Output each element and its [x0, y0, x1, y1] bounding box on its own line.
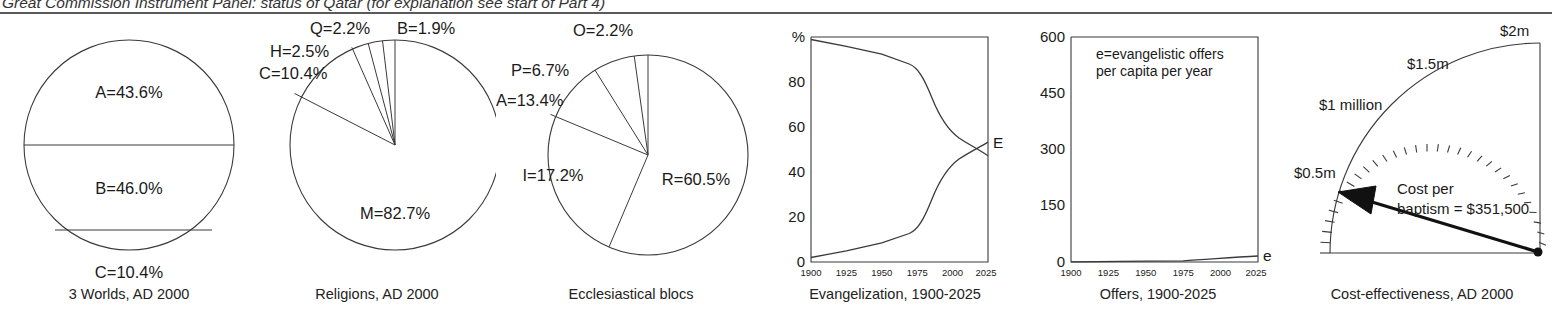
y-tick-80: 80: [788, 73, 805, 90]
x-tick-1975: 1975: [1173, 267, 1194, 278]
slice-edge-i: [609, 155, 648, 247]
x-tick-2000: 2000: [1210, 267, 1231, 278]
label-segment-b: B=46.0%: [95, 179, 163, 197]
chart-ecclesiastical-blocs: R=60.5% I=17.2% A=13.4% P=6.7% O=2.2% Ec…: [496, 14, 766, 310]
cost-effectiveness-gauge: $0.5m $1 million $1.5m $2m Cost per bapt…: [1292, 14, 1552, 310]
label-slice-c: C=10.4%: [259, 64, 328, 82]
gauge-label-2m: $2m: [1500, 22, 1529, 39]
gauge-label-1-5m: $1.5m: [1407, 55, 1449, 72]
caption-religions: Religions, AD 2000: [258, 286, 496, 302]
label-slice-m: M=82.7%: [360, 204, 430, 222]
label-slice-h: H=2.5%: [270, 42, 329, 60]
x-tick-2000: 2000: [942, 267, 963, 278]
caption-3-worlds: 3 Worlds, AD 2000: [0, 286, 258, 302]
slice-edge-c: [295, 94, 395, 146]
caption-evangelization: Evangelization, 1900-2025: [766, 286, 1024, 302]
caption-ecclesiastical-blocs: Ecclesiastical blocs: [496, 286, 766, 302]
x-tick-1925: 1925: [1098, 267, 1119, 278]
x-tick-2025: 2025: [975, 267, 996, 278]
slice-edge-o: [634, 56, 648, 155]
slice-edge-a: [551, 114, 649, 155]
chart-cost-effectiveness: $0.5m $1 million $1.5m $2m Cost per bapt…: [1292, 14, 1552, 310]
gauge-label-0-5m: $0.5m: [1294, 164, 1336, 181]
x-tick-1950: 1950: [1135, 267, 1156, 278]
y-tick-450: 450: [1040, 84, 1065, 101]
page-title: Great Commission Instrument Panel: statu…: [2, 0, 1550, 11]
caption-cost-effectiveness: Cost-effectiveness, AD 2000: [1292, 286, 1552, 302]
x-tick-1975: 1975: [907, 267, 928, 278]
y-tick-150: 150: [1040, 196, 1065, 213]
x-tick-1950: 1950: [871, 267, 892, 278]
label-slice-a: A=13.4%: [496, 91, 564, 109]
gauge-readout-line-2: baptism = $351,500: [1397, 200, 1529, 217]
plot-frame: [811, 37, 988, 262]
chart-religions: M=82.7% C=10.4% H=2.5% Q=2.2% B=1.9% Rel…: [258, 14, 496, 310]
y-tick-20: 20: [788, 208, 805, 225]
slice-edge-p: [595, 70, 648, 155]
x-tick-1900: 1900: [1060, 267, 1081, 278]
instrument-panel: Great Commission Instrument Panel: statu…: [0, 0, 1552, 310]
label-slice-p: P=6.7%: [511, 61, 570, 79]
curve-unevangelized: [811, 40, 988, 156]
evangelization-line-chart: % 0 20 40 60 80 1900 1925 1950 1975 2000…: [766, 14, 1024, 310]
religions-pie: M=82.7% C=10.4% H=2.5% Q=2.2% B=1.9%: [258, 14, 496, 310]
y-tick-600: 600: [1040, 28, 1065, 45]
chart-offers: 600 450 300 150 0 1900 1925 1950 1975 20…: [1024, 14, 1292, 310]
offers-note-line-2: per capita per year: [1096, 63, 1213, 79]
label-slice-r: R=60.5%: [662, 170, 731, 188]
label-slice-i: I=17.2%: [522, 166, 583, 184]
offers-line-chart: 600 450 300 150 0 1900 1925 1950 1975 20…: [1024, 14, 1292, 310]
y-axis-unit: %: [792, 28, 805, 45]
curve-offers: [1071, 256, 1258, 262]
label-segment-c: C=10.4%: [95, 263, 164, 281]
label-segment-a: A=43.6%: [95, 83, 163, 101]
series-label-e: e: [1263, 247, 1272, 264]
offers-note-line-1: e=evangelistic offers: [1096, 46, 1224, 62]
label-slice-o: O=2.2%: [573, 21, 633, 39]
series-label-E: E: [993, 134, 1003, 151]
x-tick-2025: 2025: [1245, 267, 1266, 278]
label-slice-b: B=1.9%: [397, 19, 456, 37]
caption-offers: Offers, 1900-2025: [1024, 286, 1292, 302]
curve-evangelized: [811, 142, 988, 257]
x-tick-1900: 1900: [800, 267, 821, 278]
y-tick-300: 300: [1040, 140, 1065, 157]
chart-3-worlds: A=43.6% B=46.0% C=10.4% 3 Worlds, AD 200…: [0, 14, 258, 310]
gauge-label-1-million: $1 million: [1319, 96, 1382, 113]
label-slice-q: Q=2.2%: [310, 19, 370, 37]
y-tick-40: 40: [788, 163, 805, 180]
three-worlds-diagram: A=43.6% B=46.0% C=10.4%: [0, 14, 258, 310]
y-tick-60: 60: [788, 118, 805, 135]
slice-edge-b: [383, 41, 396, 145]
chart-evangelization: % 0 20 40 60 80 1900 1925 1950 1975 2000…: [766, 14, 1024, 310]
x-tick-1925: 1925: [836, 267, 857, 278]
gauge-readout-line-1: Cost per: [1397, 180, 1454, 197]
blocs-pie: R=60.5% I=17.2% A=13.4% P=6.7% O=2.2%: [496, 14, 766, 310]
